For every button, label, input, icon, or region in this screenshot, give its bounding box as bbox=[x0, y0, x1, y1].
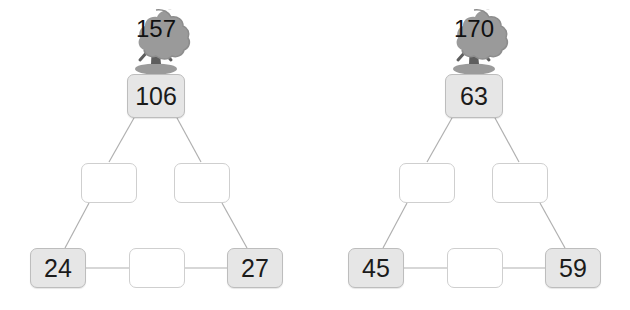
tree-icon: 157 bbox=[118, 6, 194, 80]
pyramid-cell-bottom-left[interactable]: 24 bbox=[30, 248, 86, 288]
pyramid-cell-middle-left[interactable] bbox=[81, 163, 137, 203]
pyramid-cell-middle-right[interactable] bbox=[174, 163, 230, 203]
pyramid-cell-middle-left[interactable] bbox=[399, 163, 455, 203]
number-pyramid-right: 170 63 45 59 bbox=[323, 0, 628, 310]
number-pyramid-left: 157 106 24 27 bbox=[5, 0, 310, 310]
pyramid-cell-top[interactable]: 106 bbox=[127, 74, 185, 118]
pyramid-cell-bottom-middle[interactable] bbox=[447, 248, 503, 288]
pyramid-cell-bottom-left[interactable]: 45 bbox=[348, 248, 404, 288]
pyramid-cell-bottom-right[interactable]: 27 bbox=[227, 248, 283, 288]
pyramid-cell-bottom-right[interactable]: 59 bbox=[545, 248, 601, 288]
pyramid-cell-top[interactable]: 63 bbox=[445, 74, 503, 118]
tree-value-label: 170 bbox=[436, 6, 512, 56]
pyramid-cell-bottom-middle[interactable] bbox=[129, 248, 185, 288]
tree-value-label: 157 bbox=[118, 6, 194, 56]
tree-icon: 170 bbox=[436, 6, 512, 80]
worksheet-canvas: 157 106 24 27 bbox=[0, 0, 630, 310]
pyramid-cell-middle-right[interactable] bbox=[492, 163, 548, 203]
